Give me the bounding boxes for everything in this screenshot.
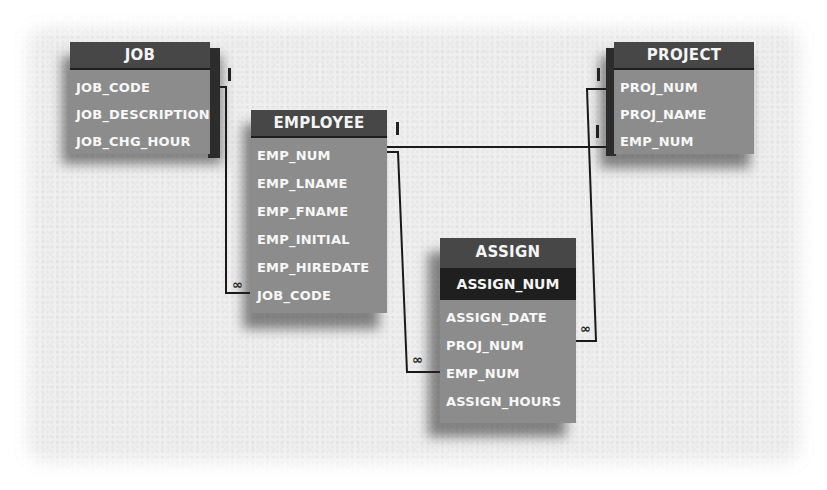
entity-title: JOB [70,42,210,70]
attribute: EMP_NUM [620,128,754,155]
cardinality-one-project-empnum [596,125,599,138]
attribute: EMP_NUM [257,142,387,170]
attribute: ASSIGN_HOURS [446,388,576,416]
attribute: EMP_LNAME [257,170,387,198]
attribute: JOB_DESCRIPTION [76,101,210,128]
cardinality-one-employee [396,122,399,135]
entity-assign[interactable]: ASSIGN ASSIGN_NUM ASSIGN_DATE PROJ_NUM E… [440,238,576,423]
attribute: JOB_CODE [76,74,210,101]
cardinality-one-job [228,68,231,81]
cardinality-many-assign-projnum: ∞ [580,321,591,336]
attribute: PROJ_NUM [446,332,576,360]
attribute: PROJ_NAME [620,101,754,128]
attribute: EMP_INITIAL [257,226,387,254]
primary-key: ASSIGN_NUM [440,268,576,300]
attribute: ASSIGN_DATE [446,304,576,332]
attribute: EMP_HIREDATE [257,254,387,282]
attribute: PROJ_NUM [620,74,754,101]
attribute: EMP_NUM [446,360,576,388]
entity-project[interactable]: PROJECT PROJ_NUM PROJ_NAME EMP_NUM [614,42,756,158]
attribute: JOB_CHG_HOUR [76,128,210,155]
entity-title: PROJECT [614,42,754,70]
attribute: EMP_FNAME [257,198,387,226]
cardinality-many-employee-jobcode: ∞ [232,277,243,292]
cardinality-many-assign-empnum: ∞ [412,352,423,367]
entity-job[interactable]: JOB JOB_CODE JOB_DESCRIPTION JOB_CHG_HOU… [70,42,220,158]
entity-employee[interactable]: EMPLOYEE EMP_NUM EMP_LNAME EMP_FNAME EMP… [251,110,387,315]
attribute: JOB_CODE [257,282,387,310]
entity-title: ASSIGN [440,238,576,268]
entity-title: EMPLOYEE [251,110,387,138]
